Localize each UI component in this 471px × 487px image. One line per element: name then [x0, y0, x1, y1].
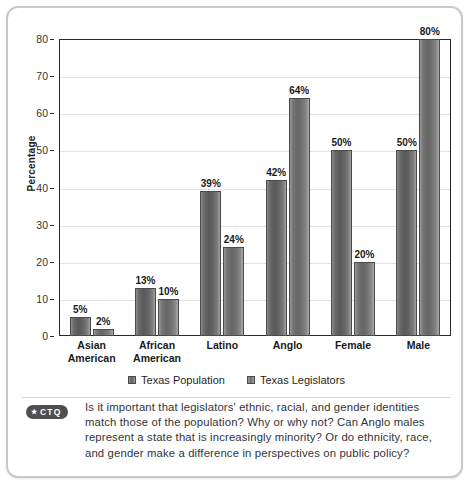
y-axis-tick-label: 60 [36, 107, 48, 119]
bar[interactable] [70, 317, 91, 336]
bar-column[interactable]: 39% [200, 39, 221, 336]
legend-item-texas-population: Texas Population [128, 374, 225, 386]
bar-column[interactable]: 50% [331, 39, 352, 336]
chart-legend: Texas Population Texas Legislators [8, 374, 465, 386]
bar-column[interactable]: 50% [396, 39, 417, 336]
bar-group: 42%64% [255, 39, 320, 336]
bar[interactable] [396, 150, 417, 336]
y-axis-tick-label: 20 [36, 256, 48, 268]
y-axis-tick-label: 80 [36, 33, 48, 45]
bar-group: 13%10% [124, 39, 189, 336]
bar-group: 5%2% [59, 39, 124, 336]
ctq-badge: ★CTQ [26, 405, 68, 419]
bar-column[interactable]: 5% [70, 39, 91, 336]
x-axis-category-label: Female [320, 339, 385, 352]
bar[interactable] [158, 299, 179, 336]
caption-question-text: Is it important that legislators' ethnic… [85, 400, 451, 461]
x-axis-category-labels: AsianAmericanAfricanAmericanLatinoAngloF… [59, 339, 451, 373]
bar[interactable] [223, 247, 244, 336]
y-axis-tick-label: 50 [36, 144, 48, 156]
y-axis-tick-mark [50, 336, 54, 337]
bar-column[interactable]: 13% [135, 39, 156, 336]
y-axis-tick-mark [50, 150, 54, 151]
bar-value-label: 13% [135, 275, 155, 286]
y-axis-tick-mark [50, 76, 54, 77]
legend-label: Texas Population [141, 374, 225, 386]
y-axis-tick-label: 10 [36, 293, 48, 305]
bar[interactable] [266, 180, 287, 336]
bar-value-label: 64% [289, 85, 309, 96]
bar-column[interactable]: 80% [419, 39, 440, 336]
x-axis-category-label-line: American [59, 352, 124, 365]
y-axis-tick-label: 70 [36, 70, 48, 82]
bar-value-label: 24% [224, 234, 244, 245]
figure-frame: Percentage 01020304050607080 5%2%13%10%3… [6, 6, 463, 478]
legend-label: Texas Legislators [260, 374, 345, 386]
x-axis-category-label: AfricanAmerican [124, 339, 189, 365]
bar[interactable] [135, 288, 156, 336]
x-axis-category-label-line: Asian [59, 339, 124, 352]
bar-group: 50%80% [386, 39, 451, 336]
y-axis-tick-mark [50, 262, 54, 263]
y-axis-tick-mark [50, 188, 54, 189]
x-axis-category-label: Male [386, 339, 451, 352]
bar-column[interactable]: 20% [354, 39, 375, 336]
bar-group: 39%24% [190, 39, 255, 336]
bar-value-label: 50% [331, 137, 351, 148]
y-axis-tick-labels: 01020304050607080 [8, 39, 54, 336]
bar-group: 50%20% [320, 39, 385, 336]
bar-value-label: 80% [420, 26, 440, 37]
x-axis-category-label: AsianAmerican [59, 339, 124, 365]
bar[interactable] [331, 150, 352, 336]
y-axis-tick-label: 40 [36, 182, 48, 194]
bar-column[interactable]: 64% [289, 39, 310, 336]
bar[interactable] [354, 262, 375, 336]
x-axis-category-label-line: Female [320, 339, 385, 352]
bar-value-label: 10% [158, 286, 178, 297]
x-axis-category-label: Anglo [255, 339, 320, 352]
bar[interactable] [93, 329, 114, 336]
y-axis-tick-label: 0 [42, 330, 48, 342]
x-axis-category-label-line: Male [386, 339, 451, 352]
y-axis-tick-mark [50, 299, 54, 300]
bar-value-label: 20% [354, 249, 374, 260]
bar[interactable] [200, 191, 221, 336]
bar[interactable] [289, 98, 310, 336]
bar-value-label: 5% [73, 304, 87, 315]
x-axis-category-label-line: African [124, 339, 189, 352]
y-axis-tick-mark [50, 113, 54, 114]
bar[interactable] [419, 39, 440, 336]
bar-column[interactable]: 24% [223, 39, 244, 336]
caption-divider [22, 397, 451, 398]
legend-swatch-icon [247, 376, 255, 384]
x-axis-category-label-line: Latino [190, 339, 255, 352]
bar-column[interactable]: 42% [266, 39, 287, 336]
bar-value-label: 50% [397, 137, 417, 148]
y-axis-tick-mark [50, 225, 54, 226]
x-axis-category-label: Latino [190, 339, 255, 352]
legend-swatch-icon [128, 376, 136, 384]
ctq-badge-label: CTQ [40, 407, 61, 417]
legend-item-texas-legislators: Texas Legislators [247, 374, 345, 386]
star-icon: ★ [31, 408, 38, 415]
bar-value-label: 39% [201, 178, 221, 189]
bar-chart: Percentage 01020304050607080 5%2%13%10%3… [8, 8, 465, 398]
bar-column[interactable]: 2% [93, 39, 114, 336]
bar-column[interactable]: 10% [158, 39, 179, 336]
bar-value-label: 42% [266, 167, 286, 178]
y-axis-tick-mark [50, 39, 54, 40]
x-axis-category-label-line: American [124, 352, 189, 365]
y-axis-tick-label: 30 [36, 219, 48, 231]
bar-value-label: 2% [96, 316, 110, 327]
x-axis-category-label-line: Anglo [255, 339, 320, 352]
bars-layer: 5%2%13%10%39%24%42%64%50%20%50%80% [59, 39, 451, 336]
